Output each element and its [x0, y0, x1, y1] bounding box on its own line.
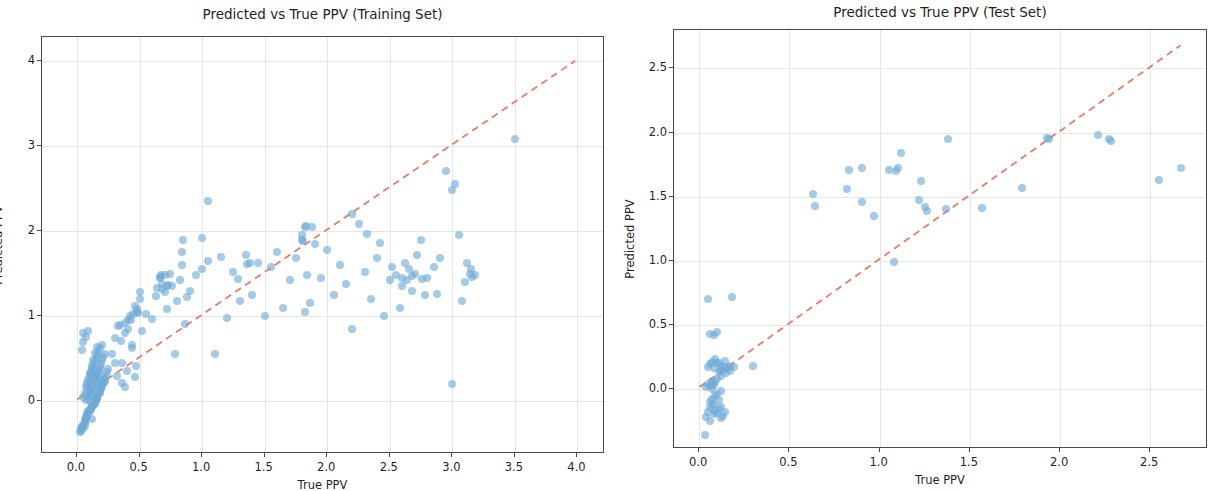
y-tick-label: 0.5 — [627, 317, 667, 331]
plot-area-test — [673, 29, 1207, 448]
x-tick-mark — [879, 448, 880, 452]
x-tick-mark — [201, 453, 202, 457]
x-tick-mark — [698, 448, 699, 452]
x-tick-mark — [514, 453, 515, 457]
x-tick-label: 4.0 — [567, 460, 585, 474]
y-tick-mark — [37, 145, 41, 146]
y-axis-label-test: Predicted PPV — [623, 199, 637, 278]
x-tick-label: 1.5 — [960, 455, 978, 469]
x-tick-label: 0.5 — [129, 460, 147, 474]
y-tick-mark — [669, 388, 673, 389]
x-tick-label: 3.0 — [442, 460, 460, 474]
x-tick-mark — [1059, 448, 1060, 452]
chart-title-training: Predicted vs True PPV (Training Set) — [41, 6, 604, 22]
x-tick-label: 1.5 — [255, 460, 273, 474]
y-tick-mark — [37, 400, 41, 401]
y-tick-mark — [37, 60, 41, 61]
x-tick-label: 2.0 — [317, 460, 335, 474]
figure-canvas: Predicted vs True PPV (Training Set) 0.0… — [0, 0, 1223, 491]
chart-title-test: Predicted vs True PPV (Test Set) — [673, 4, 1207, 20]
x-tick-mark — [788, 448, 789, 452]
x-tick-label: 1.0 — [192, 460, 210, 474]
y-tick-label: 1 — [0, 308, 35, 322]
x-axis-label-test: True PPV — [915, 473, 965, 487]
y-tick-mark — [669, 67, 673, 68]
x-tick-label: 2.5 — [1140, 455, 1158, 469]
x-tick-label: 3.5 — [505, 460, 523, 474]
y-tick-mark — [669, 132, 673, 133]
y-tick-label: 2 — [0, 223, 35, 237]
y-tick-mark — [669, 260, 673, 261]
x-tick-mark — [451, 453, 452, 457]
x-tick-label: 0.5 — [779, 455, 797, 469]
x-tick-mark — [76, 453, 77, 457]
y-tick-mark — [37, 230, 41, 231]
y-tick-mark — [37, 315, 41, 316]
y-tick-label: 3 — [0, 138, 35, 152]
y-tick-label: 2.5 — [627, 60, 667, 74]
y-tick-label: 0.0 — [627, 381, 667, 395]
plot-area-training — [41, 36, 604, 453]
y-axis-label-training: Predicted PPV — [0, 205, 5, 284]
x-tick-label: 2.0 — [1050, 455, 1068, 469]
reference-line-y-equals-x — [42, 37, 603, 452]
x-tick-label: 2.5 — [380, 460, 398, 474]
y-tick-mark — [669, 324, 673, 325]
y-tick-mark — [669, 196, 673, 197]
x-tick-label: 1.0 — [870, 455, 888, 469]
y-tick-label: 4 — [0, 53, 35, 67]
x-tick-label: 0.0 — [67, 460, 85, 474]
x-tick-mark — [1149, 448, 1150, 452]
panel-test: Predicted vs True PPV (Test Set) 0.00.51… — [620, 0, 1223, 491]
x-tick-mark — [389, 453, 390, 457]
x-tick-mark — [326, 453, 327, 457]
reference-line-y-equals-x — [674, 30, 1206, 447]
x-axis-label-training: True PPV — [298, 478, 348, 491]
x-tick-label: 0.0 — [689, 455, 707, 469]
x-tick-mark — [139, 453, 140, 457]
y-tick-label: 0 — [0, 393, 35, 407]
y-tick-label: 2.0 — [627, 125, 667, 139]
x-tick-mark — [264, 453, 265, 457]
x-tick-mark — [576, 453, 577, 457]
x-tick-mark — [969, 448, 970, 452]
panel-training: Predicted vs True PPV (Training Set) 0.0… — [0, 0, 620, 491]
